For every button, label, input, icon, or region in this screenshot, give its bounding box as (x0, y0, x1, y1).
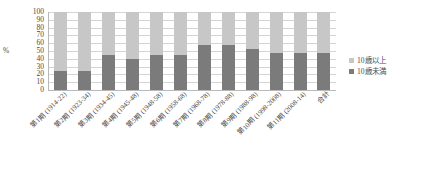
bar-column[interactable] (102, 12, 115, 90)
y-axis-tick-label: 0 (40, 86, 44, 94)
bar-segment-upper[interactable] (150, 12, 163, 55)
bar-segment-lower[interactable] (317, 53, 330, 90)
legend-item[interactable]: 10歳以上 (349, 56, 417, 65)
bar-segment-upper[interactable] (102, 12, 115, 55)
bar-segment-lower[interactable] (294, 53, 307, 90)
bars-layer (49, 12, 336, 90)
bar-segment-lower[interactable] (78, 71, 91, 90)
bar-column[interactable] (174, 12, 187, 90)
bar-column[interactable] (78, 12, 91, 90)
legend-label: 10歳以上 (357, 57, 386, 65)
stacked-bar-chart: % 1009080706050403020100 第1期 (1914-22)第2… (0, 0, 421, 179)
bar-column[interactable] (222, 12, 235, 90)
bar-segment-lower[interactable] (222, 45, 235, 90)
plot-area (48, 12, 336, 91)
legend-swatch-icon (349, 69, 354, 74)
y-axis-tick-labels: 1009080706050403020100 (14, 12, 45, 90)
bar-segment-lower[interactable] (270, 53, 283, 90)
bar-segment-upper[interactable] (222, 12, 235, 45)
bar-segment-upper[interactable] (294, 12, 307, 53)
bar-segment-lower[interactable] (150, 55, 163, 90)
bar-segment-upper[interactable] (54, 12, 67, 71)
bar-segment-upper[interactable] (317, 12, 330, 53)
bar-column[interactable] (54, 12, 67, 90)
bar-column[interactable] (317, 12, 330, 90)
legend-label: 10歳未満 (357, 68, 386, 76)
bar-column[interactable] (126, 12, 139, 90)
bar-segment-upper[interactable] (246, 12, 259, 49)
bar-segment-lower[interactable] (126, 59, 139, 90)
chart-legend: 10歳以上10歳未満 (349, 56, 417, 78)
bar-segment-upper[interactable] (126, 12, 139, 59)
y-axis-title: % (3, 47, 9, 55)
legend-item[interactable]: 10歳未満 (349, 67, 417, 76)
bar-segment-lower[interactable] (198, 45, 211, 90)
bar-segment-lower[interactable] (174, 55, 187, 90)
bar-segment-lower[interactable] (102, 55, 115, 90)
bar-segment-upper[interactable] (174, 12, 187, 55)
bar-column[interactable] (198, 12, 211, 90)
bar-column[interactable] (270, 12, 283, 90)
x-axis-tick-labels: 第1期 (1914-22)第2期 (1923-34)第3期 (1934-45)第… (48, 91, 335, 151)
bar-column[interactable] (150, 12, 163, 90)
bar-segment-lower[interactable] (54, 71, 67, 90)
bar-segment-upper[interactable] (198, 12, 211, 45)
bar-segment-upper[interactable] (270, 12, 283, 53)
bar-column[interactable] (294, 12, 307, 90)
legend-swatch-icon (349, 58, 354, 63)
x-axis-tick-label: 合計 (316, 91, 331, 106)
bar-segment-upper[interactable] (78, 12, 91, 71)
bar-column[interactable] (246, 12, 259, 90)
bar-segment-lower[interactable] (246, 49, 259, 90)
